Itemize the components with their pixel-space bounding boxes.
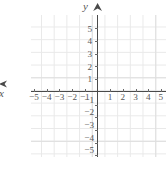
x-tick-label: 1: [104, 93, 116, 102]
x-tick-label: 5: [155, 93, 166, 102]
y-tick-label: −5: [80, 146, 94, 155]
y-tickmark: [95, 79, 98, 80]
y-tickmark: [95, 143, 98, 144]
y-axis-label: y: [83, 1, 88, 12]
y-axis-line: [97, 15, 98, 157]
y-tickmark: [95, 117, 98, 118]
x-tick-label: −4: [41, 93, 53, 102]
x-tick-label: 4: [142, 93, 154, 102]
x-tick-label: −2: [66, 93, 78, 102]
y-tick-label: 2: [80, 63, 92, 72]
coordinate-plane-figure: y x −5 −4 −3 −2 −1 1 2 3 4 5 5 4 3 2 1 −…: [0, 0, 166, 170]
y-tick-label: 3: [80, 50, 92, 59]
y-tickmark: [95, 28, 98, 29]
y-tick-label: −3: [80, 121, 94, 130]
y-tickmark: [95, 54, 98, 55]
y-tickmark: [95, 130, 98, 131]
x-tick-label: 3: [130, 93, 142, 102]
y-tick-label: −1: [80, 96, 94, 105]
x-tick-label: −3: [53, 93, 65, 102]
grid-major-lines: [31, 15, 166, 157]
x-tick-label: −5: [28, 93, 40, 102]
y-axis-arrow-icon: [92, 2, 103, 18]
y-tick-label: −4: [80, 134, 94, 143]
y-tickmark: [95, 41, 98, 42]
y-tick-label: −2: [80, 108, 94, 117]
x-tick-label: 2: [117, 93, 129, 102]
y-tickmark: [95, 66, 98, 67]
x-axis-label: x: [0, 88, 4, 99]
y-tickmark: [95, 105, 98, 106]
y-tickmark: [95, 155, 98, 156]
y-tick-label: 1: [80, 75, 92, 84]
y-tick-label: 4: [80, 37, 92, 46]
y-tick-label: 5: [80, 25, 92, 34]
